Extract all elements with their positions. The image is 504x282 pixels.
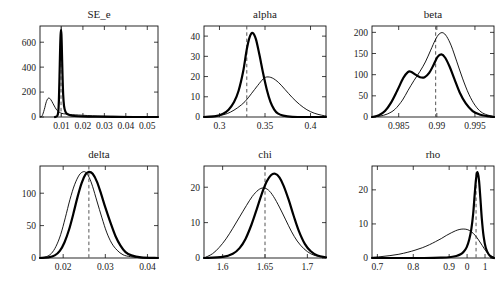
x-tick-label: 1.6 xyxy=(217,262,229,272)
x-tick-label: 0.04 xyxy=(118,121,135,131)
axes-frame xyxy=(204,26,326,117)
x-tick-label: 0.02 xyxy=(75,121,92,131)
y-tick-label: 0 xyxy=(195,253,200,263)
x-tick-label: 1.7 xyxy=(301,262,313,272)
panel-alpha: alpha0.30.350.4010203040 xyxy=(170,4,336,141)
x-tick-label: 0.8 xyxy=(407,262,419,272)
y-tick-label: 50 xyxy=(27,221,37,231)
x-tick-label: 0.01 xyxy=(53,121,70,131)
y-tick-label: 20 xyxy=(191,183,201,193)
x-tick-label: 0.995 xyxy=(464,121,486,131)
panel-se-e: SE_e0.010.020.030.040.050200400600 xyxy=(6,4,168,141)
x-tick-label: 0.35 xyxy=(257,121,274,131)
x-tick-label: 0.02 xyxy=(55,262,72,272)
x-tick-label: 0.03 xyxy=(96,121,113,131)
y-tick-label: 0 xyxy=(31,253,36,263)
y-tick-label: 200 xyxy=(354,28,369,38)
x-tick-label: 0.3 xyxy=(214,121,226,131)
x-tick-label: 0.7 xyxy=(371,262,383,272)
panel-delta: delta0.020.030.04050100 xyxy=(6,144,168,282)
axes-frame xyxy=(40,166,158,258)
y-tick-label: 0 xyxy=(195,112,200,122)
y-tick-label: 10 xyxy=(191,218,201,228)
panel-title: beta xyxy=(424,8,442,20)
y-tick-label: 600 xyxy=(22,38,37,48)
y-tick-label: 20 xyxy=(191,72,201,82)
x-tick-label: 0.99 xyxy=(429,121,446,131)
x-tick-label: 0.05 xyxy=(139,121,156,131)
y-tick-label: 200 xyxy=(22,87,37,97)
x-tick-label: 0 xyxy=(465,262,470,272)
y-tick-label: 0 xyxy=(363,253,368,263)
density-curve-posterior xyxy=(372,172,494,258)
y-tick-label: 150 xyxy=(354,49,369,59)
panel-title: chi xyxy=(258,148,271,160)
panel-title: SE_e xyxy=(87,8,110,20)
x-tick-label: 0.9 xyxy=(443,262,455,272)
y-tick-label: 100 xyxy=(354,70,369,80)
y-tick-label: 20 xyxy=(359,185,369,195)
panel-rho: rho0.70.80.90101020 xyxy=(338,144,504,282)
x-tick-label: 0.985 xyxy=(388,121,410,131)
density-curve-posterior xyxy=(55,30,158,117)
y-tick-label: 30 xyxy=(191,52,201,62)
y-tick-label: 40 xyxy=(191,32,201,42)
y-tick-label: 400 xyxy=(22,63,37,73)
y-tick-label: 100 xyxy=(22,189,37,199)
x-tick-label: 0.4 xyxy=(305,121,317,131)
density-curve-posterior xyxy=(204,33,326,117)
density-curve-posterior xyxy=(204,174,326,258)
x-tick-label: 0.03 xyxy=(97,262,114,272)
y-tick-label: 50 xyxy=(359,91,369,101)
panel-title: rho xyxy=(426,148,441,160)
x-tick-label: 0.04 xyxy=(139,262,156,272)
panel-title: alpha xyxy=(253,8,277,20)
y-tick-label: 10 xyxy=(191,92,201,102)
panel-title: delta xyxy=(88,148,109,160)
density-plot-figure: SE_e0.010.020.030.040.050200400600alpha0… xyxy=(0,0,504,282)
x-tick-label: 1 xyxy=(483,262,488,272)
panel-beta: beta0.9850.990.995050100150200 xyxy=(338,4,504,141)
y-tick-label: 0 xyxy=(31,112,36,122)
panel-chi: chi1.61.651.701020 xyxy=(170,144,336,282)
y-tick-label: 0 xyxy=(363,112,368,122)
x-tick-label: 1.65 xyxy=(257,262,274,272)
y-tick-label: 10 xyxy=(359,219,369,229)
density-curve-posterior xyxy=(40,172,158,258)
density-curve-posterior xyxy=(372,54,494,117)
